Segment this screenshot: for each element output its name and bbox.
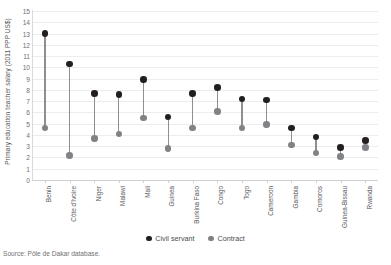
y-axis-tick-label: 6 xyxy=(16,109,30,116)
data-point-group[interactable] xyxy=(354,11,378,180)
y-axis-tick-label: 12 xyxy=(16,41,30,48)
data-point-group[interactable] xyxy=(58,11,82,180)
contract-data-point[interactable] xyxy=(140,115,147,122)
contract-data-point[interactable] xyxy=(362,144,369,151)
data-point-group[interactable] xyxy=(33,11,57,180)
source-note: Source: Pôle de Dakar database. xyxy=(3,250,100,257)
y-axis-tick-label: 15 xyxy=(16,8,30,15)
contract-data-point[interactable] xyxy=(165,145,172,152)
data-point-group[interactable] xyxy=(329,11,353,180)
civil-servant-data-point[interactable] xyxy=(214,84,221,91)
contract-data-point[interactable] xyxy=(313,150,320,157)
civil-servant-data-point[interactable] xyxy=(288,125,295,132)
data-point-group[interactable] xyxy=(157,11,181,180)
y-axis-tick-labels: 0123456789101112131415 xyxy=(14,11,30,180)
x-axis-tick-labels: BeninCôte d'IvoireNigerMalawiMaliGuineaB… xyxy=(33,183,378,231)
data-point-group[interactable] xyxy=(181,11,205,180)
y-axis-tick-label: 2 xyxy=(16,154,30,161)
civil-servant-data-point[interactable] xyxy=(189,90,196,97)
y-axis-tick-label: 9 xyxy=(16,75,30,82)
y-axis-tick-label: 11 xyxy=(16,53,30,60)
data-point-group[interactable] xyxy=(280,11,304,180)
contract-data-point[interactable] xyxy=(263,121,270,128)
civil-servant-data-point[interactable] xyxy=(165,114,172,121)
contract-data-point[interactable] xyxy=(42,125,49,132)
contract-data-point[interactable] xyxy=(239,125,246,132)
civil-servant-data-point[interactable] xyxy=(239,96,246,103)
legend-item-civil-servant[interactable]: Civil servant xyxy=(146,234,194,243)
civil-servant-data-point[interactable] xyxy=(42,30,49,37)
y-axis-title-text: Primary education teacher salary (2011 P… xyxy=(4,18,11,165)
chart-figure: Primary education teacher salary (2011 P… xyxy=(0,0,391,265)
x-axis-tick-label-text: Rwanda xyxy=(366,186,373,209)
civil-servant-data-point[interactable] xyxy=(263,97,270,104)
contract-data-point[interactable] xyxy=(214,108,221,115)
y-axis-tick-label: 4 xyxy=(16,131,30,138)
connector-line xyxy=(44,34,45,129)
y-axis-tick-label: 7 xyxy=(16,98,30,105)
y-axis-tick-label: 3 xyxy=(16,143,30,150)
connector-line xyxy=(69,64,70,155)
legend-label: Civil servant xyxy=(155,234,194,243)
y-axis-tick-label: 14 xyxy=(16,19,30,26)
y-axis-tick-label: 13 xyxy=(16,30,30,37)
chart-legend: Civil servantContract xyxy=(0,234,391,243)
civil-servant-data-point[interactable] xyxy=(91,90,98,97)
legend-marker-icon xyxy=(208,236,214,242)
y-axis-tick-label: 8 xyxy=(16,86,30,93)
civil-servant-data-point[interactable] xyxy=(362,137,369,144)
contract-data-point[interactable] xyxy=(288,142,295,149)
data-point-group[interactable] xyxy=(206,11,230,180)
connector-line xyxy=(143,80,144,118)
data-point-group[interactable] xyxy=(255,11,279,180)
civil-servant-data-point[interactable] xyxy=(116,91,123,98)
connector-line xyxy=(118,94,119,133)
legend-marker-icon xyxy=(146,236,152,242)
data-point-group[interactable] xyxy=(132,11,156,180)
data-point-group[interactable] xyxy=(107,11,131,180)
connector-line xyxy=(94,93,95,138)
civil-servant-data-point[interactable] xyxy=(337,144,344,151)
connector-line xyxy=(241,99,242,128)
data-point-group[interactable] xyxy=(83,11,107,180)
connector-line xyxy=(168,117,169,149)
y-axis-tick-label: 1 xyxy=(16,165,30,172)
y-axis-title: Primary education teacher salary (2011 P… xyxy=(0,0,14,182)
civil-servant-data-point[interactable] xyxy=(140,76,147,83)
contract-data-point[interactable] xyxy=(189,125,196,132)
plot-area xyxy=(33,11,378,180)
contract-data-point[interactable] xyxy=(91,135,98,142)
contract-data-point[interactable] xyxy=(66,152,73,159)
civil-servant-data-point[interactable] xyxy=(313,134,320,141)
connector-line xyxy=(192,93,193,128)
data-point-group[interactable] xyxy=(230,11,254,180)
y-axis-tick-label: 10 xyxy=(16,64,30,71)
x-axis-line xyxy=(32,180,378,181)
data-point-group[interactable] xyxy=(304,11,328,180)
x-axis-tick-label: Rwanda xyxy=(343,183,389,229)
y-axis-tick-label: 5 xyxy=(16,120,30,127)
legend-item-contract[interactable]: Contract xyxy=(208,234,244,243)
legend-label: Contract xyxy=(218,234,245,243)
contract-data-point[interactable] xyxy=(116,131,123,138)
contract-data-point[interactable] xyxy=(337,153,344,160)
civil-servant-data-point[interactable] xyxy=(66,61,73,68)
